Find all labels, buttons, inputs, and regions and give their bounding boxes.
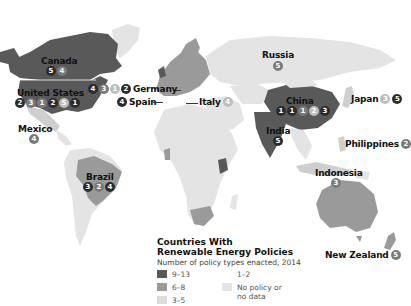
italy-leader-line bbox=[186, 103, 198, 104]
legend-title-line2: Renewable Energy Policies bbox=[157, 247, 307, 257]
policy-badge: 4 bbox=[88, 84, 98, 94]
germany-leader-line bbox=[175, 90, 181, 91]
policy-badge: 5 bbox=[391, 250, 401, 260]
legend-label: 6–8 bbox=[172, 283, 185, 292]
policy-badge: 3 bbox=[331, 178, 341, 188]
policy-badge: 4 bbox=[117, 97, 127, 107]
uk-shape bbox=[158, 66, 166, 78]
china-badges: 1 1 1 2 3 bbox=[276, 106, 330, 116]
legend-title-line1: Countries With bbox=[157, 237, 307, 247]
russia-shape bbox=[206, 36, 396, 86]
policy-badge: 1 bbox=[298, 106, 308, 116]
policy-badge: 2 bbox=[15, 98, 25, 108]
legend-item-3-5: 3–5 bbox=[157, 296, 185, 305]
policy-badge: 2 bbox=[309, 106, 319, 116]
policy-badge: 1 bbox=[70, 98, 80, 108]
policy-badge: 5 bbox=[392, 94, 402, 104]
country-label-new-zealand: New Zealand bbox=[325, 250, 389, 260]
legend-swatch bbox=[157, 283, 167, 291]
legend-swatch bbox=[222, 283, 232, 291]
legend-item-6-8: 6–8 bbox=[157, 283, 185, 292]
country-label-india: India bbox=[266, 126, 290, 136]
policy-badge: 4 bbox=[29, 134, 39, 144]
legend-label: 9–13 bbox=[172, 270, 190, 279]
policy-badge: 2 bbox=[121, 84, 131, 94]
india-badges: 5 bbox=[273, 136, 283, 146]
policy-badge: 3 bbox=[83, 182, 93, 192]
country-label-mexico: Mexico bbox=[18, 124, 52, 134]
legend-label: 3–5 bbox=[172, 296, 185, 305]
policy-badge: 1 bbox=[110, 84, 120, 94]
policy-badge: 5 bbox=[273, 136, 283, 146]
legend-item-9-13: 9–13 bbox=[157, 270, 190, 279]
new-zealand-group: New Zealand 5 bbox=[325, 250, 401, 260]
legend-item-1-2: 1–2 bbox=[222, 270, 250, 279]
legend-item-no-data: No policy or no data bbox=[222, 283, 282, 301]
country-label-italy: Italy bbox=[199, 97, 221, 107]
country-label-brazil: Brazil bbox=[86, 172, 114, 182]
russia-badges: 5 bbox=[273, 61, 283, 71]
legend-swatch bbox=[222, 270, 232, 278]
brazil-badges: 3 2 4 bbox=[83, 182, 115, 192]
germany-group: 4 3 1 2 Germany bbox=[88, 84, 177, 94]
united-states-badges: 2 3 1 2 5 1 bbox=[15, 98, 80, 108]
country-label-germany: Germany bbox=[133, 84, 177, 94]
policy-badge: 5 bbox=[59, 98, 69, 108]
ghana-shape bbox=[164, 148, 170, 160]
legend-label: No policy or no data bbox=[237, 283, 282, 301]
policy-badge: 1 bbox=[287, 106, 297, 116]
mexico-badges: 4 bbox=[29, 134, 39, 144]
policy-badge: 5 bbox=[46, 66, 56, 76]
italy-group: Italy 4 bbox=[199, 97, 233, 107]
germany-badges: 4 3 1 2 bbox=[88, 84, 131, 94]
legend-label: 1–2 bbox=[237, 270, 250, 279]
country-label-indonesia: Indonesia bbox=[315, 168, 363, 178]
legend-label-line1: No policy or bbox=[237, 283, 282, 292]
country-label-japan: Japan bbox=[351, 94, 378, 104]
policy-badge: 5 bbox=[273, 61, 283, 71]
tasmania-shape bbox=[356, 236, 362, 242]
country-label-russia: Russia bbox=[262, 50, 294, 60]
policy-badge: 3 bbox=[26, 98, 36, 108]
indonesia-badges: 3 bbox=[331, 178, 341, 188]
policy-badge: 3 bbox=[99, 84, 109, 94]
policy-badge: 3 bbox=[380, 94, 390, 104]
canada-badges: 5 4 bbox=[46, 66, 67, 76]
legend-items: 9–13 6–8 3–5 1–2 No policy or no data bbox=[157, 270, 307, 306]
policy-badge: 3 bbox=[320, 106, 330, 116]
policy-badge: 2 bbox=[401, 139, 411, 149]
new-zealand-shape bbox=[384, 232, 396, 250]
legend-swatch bbox=[157, 296, 167, 304]
philippines-group: Philippines 2 bbox=[345, 139, 411, 149]
policy-badge: 2 bbox=[94, 182, 104, 192]
australia-shape bbox=[316, 180, 378, 232]
japan-group: Japan 3 5 bbox=[351, 94, 402, 104]
country-label-canada: Canada bbox=[41, 56, 77, 66]
policy-badge: 4 bbox=[223, 97, 233, 107]
central-america-shape bbox=[56, 130, 72, 146]
policy-badge: 1 bbox=[276, 106, 286, 116]
spain-leader-line bbox=[153, 102, 163, 103]
southeast-asia-shape bbox=[290, 128, 312, 160]
country-label-china: China bbox=[286, 96, 314, 106]
country-label-philippines: Philippines bbox=[345, 139, 399, 149]
legend-subtitle: Number of policy types enacted, 2014 bbox=[157, 258, 307, 268]
legend-swatch bbox=[157, 270, 167, 278]
policy-badge: 4 bbox=[105, 182, 115, 192]
legend-label-line2: no data bbox=[237, 292, 266, 301]
policy-badge: 1 bbox=[37, 98, 47, 108]
policy-badge: 2 bbox=[48, 98, 58, 108]
country-label-united-states: United States bbox=[17, 88, 84, 98]
spain-group: 4 Spain bbox=[117, 97, 157, 107]
madagascar-shape bbox=[230, 194, 238, 210]
map-legend: Countries With Renewable Energy Policies… bbox=[157, 237, 307, 306]
policy-badge: 4 bbox=[57, 66, 67, 76]
